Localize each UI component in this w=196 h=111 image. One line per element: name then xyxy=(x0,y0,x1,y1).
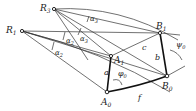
label-A0: A0 xyxy=(100,97,112,108)
label-phi0: φ0 xyxy=(118,69,128,79)
label-R1: R1 xyxy=(5,25,17,36)
joint-A1 xyxy=(109,54,112,57)
four-bar-linkage-diagram: R3 R1 B1 B0 A0 A1 a b c f φ0 ψ0 α3 α3 α2… xyxy=(0,0,196,111)
label-alpha2-a: α2 xyxy=(66,37,74,46)
label-link-a: a xyxy=(104,68,109,77)
joint-R3 xyxy=(52,7,55,10)
joint-B0 xyxy=(165,74,169,78)
label-alpha2-b: α2 xyxy=(55,49,63,58)
joint-R1 xyxy=(20,29,23,32)
joint-B1 xyxy=(158,31,161,34)
label-R3: R3 xyxy=(39,3,51,14)
label-A1: A1 xyxy=(113,55,124,66)
label-B1: B1 xyxy=(155,21,166,32)
label-B0: B0 xyxy=(161,81,173,92)
label-link-b: b xyxy=(155,53,160,62)
joint-A0 xyxy=(105,90,109,94)
label-psi0: ψ0 xyxy=(176,40,186,50)
label-alpha3-top: α3 xyxy=(90,15,98,24)
label-link-f: f xyxy=(137,93,143,102)
label-link-c: c xyxy=(142,43,147,52)
